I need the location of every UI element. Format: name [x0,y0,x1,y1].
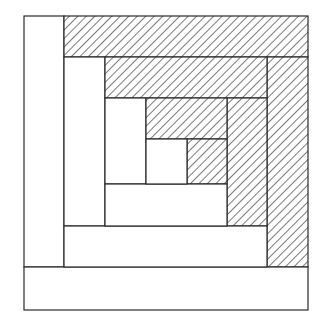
piece-ring3-right-hatched [187,139,227,184]
log-cabin-diagram [0,0,322,332]
piece-border-left-plain [24,16,64,267]
piece-ring2-top-hatched [105,57,267,98]
piece-center-plain [146,139,187,184]
piece-ring2-left-plain [64,57,105,226]
piece-border-top-hatched [64,16,308,57]
piece-ring3-bottom-plain [105,184,227,226]
piece-ring3-top-hatched [146,98,227,139]
piece-border-right-hatched [267,57,308,267]
piece-ring2-bottom-plain [64,226,267,267]
piece-ring2-right-hatched [227,98,267,226]
piece-border-bottom-plain [24,267,308,310]
piece-ring3-left-plain [105,98,146,184]
quilt-pieces [24,16,308,310]
